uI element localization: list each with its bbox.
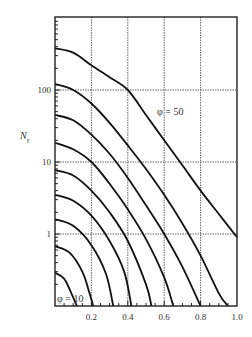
annotation-phi-50: φ = 50	[157, 106, 183, 117]
y-tick-labels: 110100	[38, 85, 52, 239]
x-tick-labels: 0.20.40.60.81.0	[86, 312, 243, 322]
x-tick-label: 0.2	[86, 312, 97, 322]
curve-35	[55, 143, 173, 306]
x-tick-label: 0.8	[195, 312, 207, 322]
y-tick-label: 1	[47, 229, 52, 239]
annotation-phi-10: φ = 10	[57, 293, 83, 304]
x-tick-label: 1.0	[231, 312, 243, 322]
y-tick-label: 10	[42, 157, 52, 167]
y-axis-label: Nγ	[20, 130, 29, 144]
grid-lines	[55, 17, 237, 306]
y-tick-label: 100	[38, 85, 52, 95]
x-tick-label: 0.6	[159, 312, 171, 322]
chart-plot: 0.20.40.60.81.0 110100	[0, 0, 252, 337]
curve-50	[55, 48, 237, 237]
x-tick-label: 0.4	[122, 312, 134, 322]
data-curves	[55, 48, 237, 306]
